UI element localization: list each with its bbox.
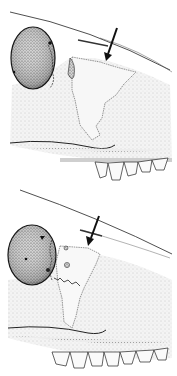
skull-illustration-bottom (0, 188, 177, 376)
arrow-icon (86, 216, 99, 246)
skull-illustration-top (0, 0, 177, 188)
